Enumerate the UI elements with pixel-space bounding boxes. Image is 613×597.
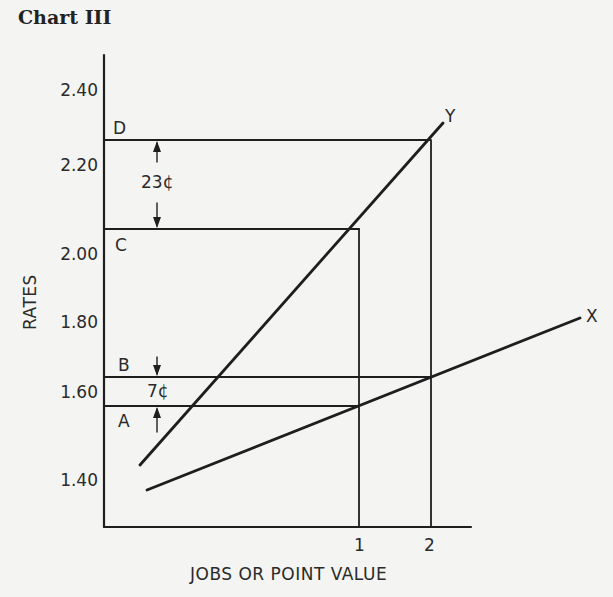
x-axis-title: JOBS OR POINT VALUE <box>190 564 387 584</box>
y-tick-1-60: 1.60 <box>28 382 98 402</box>
series-y-label: Y <box>445 106 455 126</box>
series-y-line <box>140 123 443 465</box>
series-x-line <box>147 318 580 490</box>
y-tick-2-00: 2.00 <box>28 244 98 264</box>
label-d: D <box>113 118 126 138</box>
y-tick-2-20: 2.20 <box>28 155 98 175</box>
label-a: A <box>118 411 130 431</box>
y-tick-2-40: 2.40 <box>28 80 98 100</box>
annotation-7-cents: 7¢ <box>147 381 169 401</box>
y-axis-title: RATES <box>20 274 40 330</box>
label-b: B <box>118 355 130 375</box>
x-tick-2: 2 <box>424 535 435 555</box>
y-tick-1-40: 1.40 <box>28 470 98 490</box>
annotation-23-cents: 23¢ <box>141 172 173 192</box>
series-x-label: X <box>586 306 598 326</box>
label-c: C <box>115 235 127 255</box>
x-tick-1: 1 <box>354 535 365 555</box>
